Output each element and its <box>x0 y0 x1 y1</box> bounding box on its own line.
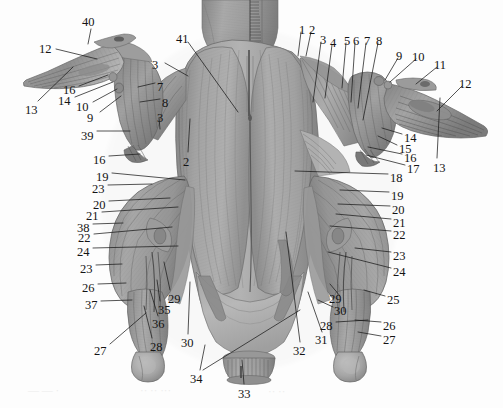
scan-artifact: ·· ·· <box>268 385 285 397</box>
label-41: 41 <box>176 33 189 45</box>
leader-line <box>93 89 117 102</box>
label-30: 30 <box>181 337 194 349</box>
label-8: 8 <box>162 97 168 109</box>
label-23: 23 <box>80 263 93 275</box>
label-2: 2 <box>309 24 315 36</box>
label-18: 18 <box>390 172 403 184</box>
label-1: 1 <box>299 24 305 36</box>
label-35: 35 <box>158 304 171 316</box>
scan-artifact: ·· ·· ··· <box>140 384 171 396</box>
label-4: 4 <box>330 37 336 49</box>
label-26: 26 <box>383 320 396 332</box>
label-9: 9 <box>87 112 93 124</box>
label-22: 22 <box>78 232 91 244</box>
label-34: 34 <box>190 373 203 385</box>
label-5: 5 <box>344 35 350 47</box>
label-3: 3 <box>157 112 163 124</box>
label-16: 16 <box>93 154 106 166</box>
label-14: 14 <box>58 95 71 107</box>
label-30: 30 <box>334 305 347 317</box>
label-7: 7 <box>364 35 370 47</box>
label-26: 26 <box>82 282 95 294</box>
label-37: 37 <box>85 299 98 311</box>
anatomical-plate: 4012161410913783391641321234567891011121… <box>0 0 503 408</box>
label-3: 3 <box>152 59 158 71</box>
scan-artifact: — — · <box>28 384 59 396</box>
label-23: 23 <box>92 183 105 195</box>
label-32: 32 <box>293 345 306 357</box>
label-9: 9 <box>396 50 402 62</box>
label-17: 17 <box>407 163 420 175</box>
label-12: 12 <box>459 78 472 90</box>
label-27: 27 <box>383 334 396 346</box>
label-31: 31 <box>315 334 328 346</box>
label-10: 10 <box>412 51 425 63</box>
label-6: 6 <box>353 35 359 47</box>
label-28: 28 <box>150 341 163 353</box>
label-23: 23 <box>393 250 406 262</box>
label-36: 36 <box>152 318 165 330</box>
anatomy-figure <box>0 0 503 408</box>
label-19: 19 <box>391 190 404 202</box>
leader-line <box>88 29 91 44</box>
label-7: 7 <box>157 81 163 93</box>
label-8: 8 <box>376 35 382 47</box>
label-24: 24 <box>393 266 406 278</box>
label-20: 20 <box>392 204 405 216</box>
label-39: 39 <box>81 130 94 142</box>
label-28: 28 <box>320 320 333 332</box>
label-40: 40 <box>82 16 95 28</box>
label-11: 11 <box>434 59 446 71</box>
label-25: 25 <box>387 294 400 306</box>
label-33: 33 <box>238 388 251 400</box>
label-24: 24 <box>77 246 90 258</box>
label-12: 12 <box>39 43 52 55</box>
label-2: 2 <box>183 156 189 168</box>
label-22: 22 <box>393 229 406 241</box>
label-27: 27 <box>94 345 107 357</box>
label-13: 13 <box>25 104 38 116</box>
label-3: 3 <box>320 34 326 46</box>
label-13: 13 <box>433 162 446 174</box>
